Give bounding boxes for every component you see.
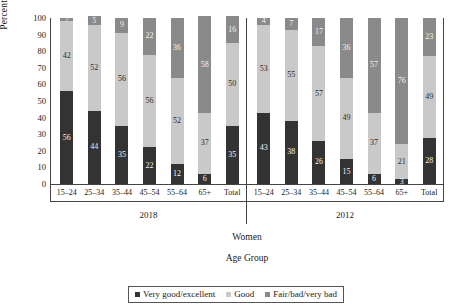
- bar-value-label: 6: [368, 175, 381, 183]
- plot-area: 2425655244956352256223652125837616503545…: [50, 18, 444, 185]
- bar-stack[interactable]: 165035: [226, 16, 239, 184]
- bar-value-label: 56: [60, 134, 73, 142]
- bar-value-label: 42: [60, 52, 73, 60]
- y-axis-line: [50, 18, 51, 185]
- bar-segment[interactable]: 22: [143, 18, 156, 55]
- bar-stack[interactable]: 225622: [143, 18, 156, 184]
- bar-segment[interactable]: 43: [257, 113, 270, 184]
- bar-stack[interactable]: 234928: [423, 18, 436, 184]
- bar-segment[interactable]: 56: [60, 91, 73, 184]
- bar-segment[interactable]: 12: [171, 164, 184, 184]
- bar-stack[interactable]: 365212: [171, 18, 184, 184]
- bar-segment[interactable]: 53: [257, 25, 270, 113]
- bar-stack[interactable]: 24256: [60, 18, 73, 184]
- x-tick-label: Total: [216, 188, 248, 198]
- bar-segment[interactable]: 4: [257, 18, 270, 25]
- y-axis-title: Percentage: [0, 0, 9, 58]
- bar-segment[interactable]: 16: [226, 16, 239, 43]
- bar-stack[interactable]: 76213: [395, 18, 408, 184]
- bar-segment[interactable]: 42: [60, 21, 73, 91]
- y-tick-label: 90: [16, 31, 46, 39]
- bar-segment[interactable]: 6: [368, 174, 381, 184]
- bar-value-label: 58: [198, 61, 211, 69]
- bar-segment[interactable]: 55: [285, 30, 298, 121]
- bar-value-label: 55: [285, 71, 298, 79]
- bar-value-label: 9: [115, 21, 128, 29]
- y-tick-label: 60: [16, 80, 46, 88]
- y-tick-label: 20: [16, 147, 46, 155]
- bar-segment[interactable]: 44: [88, 111, 101, 184]
- bar-segment[interactable]: 21: [395, 144, 408, 179]
- bar-segment[interactable]: 57: [368, 18, 381, 113]
- bar-value-label: 49: [340, 114, 353, 122]
- bar-segment[interactable]: 56: [115, 33, 128, 126]
- legend-swatch-fair-bad: [265, 292, 270, 297]
- bar-value-label: 21: [395, 158, 408, 166]
- bar-value-label: 35: [226, 151, 239, 159]
- bar-value-label: 49: [423, 93, 436, 101]
- bar-segment[interactable]: 22: [143, 147, 156, 184]
- y-tick-label: 80: [16, 47, 46, 55]
- y-tick-label: 50: [16, 97, 46, 105]
- bar-value-label: 56: [115, 75, 128, 83]
- bar-value-label: 6: [198, 175, 211, 183]
- y-tick-label: 0: [16, 180, 46, 188]
- bar-value-label: 7: [285, 20, 298, 28]
- bar-segment[interactable]: 36: [340, 18, 353, 78]
- bar-segment[interactable]: 37: [368, 113, 381, 174]
- bar-value-label: 23: [423, 33, 436, 41]
- bar-segment[interactable]: 50: [226, 43, 239, 126]
- bar-segment[interactable]: 7: [285, 18, 298, 30]
- x-axis-title: Age Group: [50, 253, 444, 263]
- bar-segment[interactable]: 3: [395, 179, 408, 184]
- bar-segment[interactable]: 5: [88, 16, 101, 24]
- bar-stack[interactable]: 58376: [198, 16, 211, 184]
- bar-segment[interactable]: 6: [198, 174, 211, 184]
- bar-value-label: 57: [312, 90, 325, 98]
- bar-segment[interactable]: 49: [340, 78, 353, 159]
- bar-segment[interactable]: 52: [88, 25, 101, 111]
- bar-segment[interactable]: 49: [423, 56, 436, 137]
- bar-segment[interactable]: 15: [340, 159, 353, 184]
- legend-label-good: Good: [234, 289, 254, 300]
- bar-value-label: 52: [88, 64, 101, 72]
- bar-segment[interactable]: 76: [395, 18, 408, 144]
- legend-label-fair-bad: Fair/bad/very bad: [273, 289, 337, 300]
- bar-stack[interactable]: 175726: [312, 18, 325, 184]
- bar-stack[interactable]: 57376: [368, 18, 381, 184]
- bar-value-label: 28: [423, 157, 436, 165]
- bar-segment[interactable]: 36: [171, 18, 184, 78]
- bar-stack[interactable]: 75538: [285, 18, 298, 184]
- bar-segment[interactable]: 17: [312, 18, 325, 46]
- bar-value-label: 22: [143, 162, 156, 170]
- bar-stack[interactable]: 364915: [340, 18, 353, 184]
- y-tick-label: 100: [16, 14, 46, 22]
- legend-item-very-good: Very good/excellent: [135, 289, 215, 300]
- supergroup-label: Women: [50, 232, 444, 242]
- bar-value-label: 16: [226, 26, 239, 34]
- bar-segment[interactable]: 38: [285, 121, 298, 184]
- x-tick-label: Total: [413, 188, 445, 198]
- bar-value-label: 57: [368, 61, 381, 69]
- bar-stack[interactable]: 95635: [115, 18, 128, 184]
- panel-divider: [246, 18, 247, 185]
- bar-stack[interactable]: 45343: [257, 18, 270, 184]
- bar-segment[interactable]: 52: [171, 78, 184, 164]
- bar-value-label: 5: [88, 17, 101, 25]
- bar-segment[interactable]: 58: [198, 16, 211, 112]
- y-tick-label: 10: [16, 163, 46, 171]
- bar-segment[interactable]: 26: [312, 141, 325, 184]
- bar-segment[interactable]: 56: [143, 55, 156, 148]
- bar-segment[interactable]: 57: [312, 46, 325, 141]
- bar-segment[interactable]: 23: [423, 18, 436, 56]
- bar-segment[interactable]: 37: [198, 113, 211, 174]
- bar-segment[interactable]: 28: [423, 138, 436, 184]
- bar-segment[interactable]: 35: [226, 126, 239, 184]
- y-tick-label: 40: [16, 114, 46, 122]
- bar-value-label: 43: [257, 144, 270, 152]
- bar-value-label: 53: [257, 65, 270, 73]
- bar-segment[interactable]: 35: [115, 126, 128, 184]
- bar-stack[interactable]: 55244: [88, 16, 101, 184]
- bar-value-label: 37: [198, 139, 211, 147]
- bar-segment[interactable]: 9: [115, 18, 128, 33]
